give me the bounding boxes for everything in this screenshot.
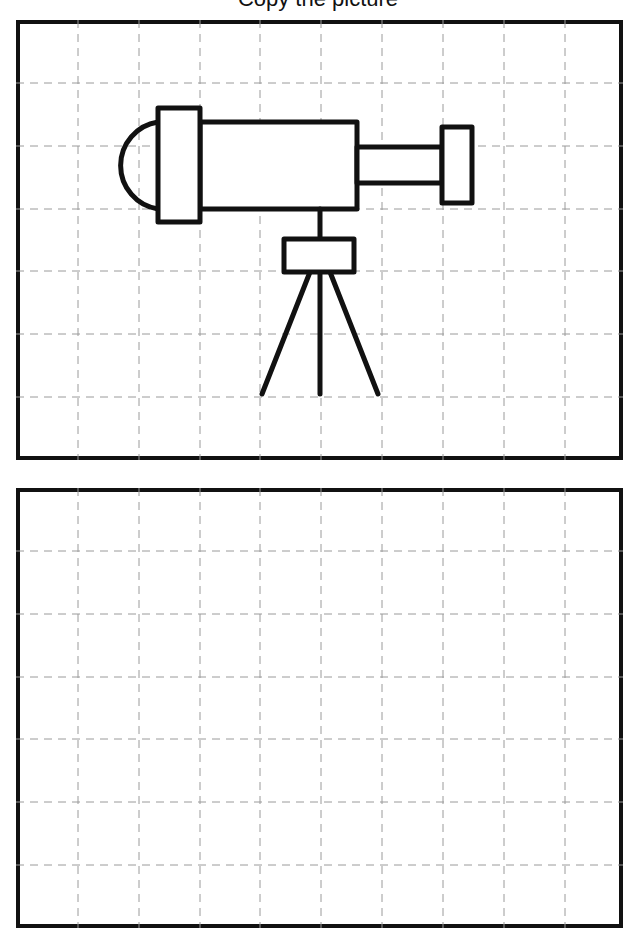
mount-box-shape — [284, 239, 354, 272]
telescope-drawing — [121, 108, 472, 394]
lens-cap-shape — [442, 127, 472, 203]
reference-panel — [16, 20, 623, 460]
main-tube-shape — [200, 122, 357, 209]
reference-grid — [16, 20, 623, 460]
instruction-title: Copy the picture — [0, 0, 636, 12]
practice-panel[interactable] — [16, 488, 623, 928]
tripod-leg-right — [330, 272, 378, 394]
practice-grid — [16, 488, 623, 928]
eyepiece-collar-shape — [158, 108, 200, 222]
small-tube-shape — [357, 147, 442, 183]
grid-lines — [16, 488, 623, 928]
tripod-leg-left — [262, 272, 310, 394]
